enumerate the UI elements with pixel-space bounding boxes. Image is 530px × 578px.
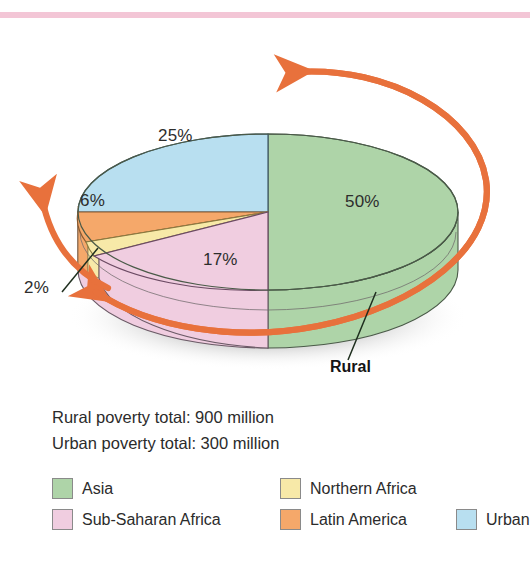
legend-label-asia: Asia (82, 480, 113, 498)
legend-label-northern-africa: Northern Africa (310, 480, 417, 498)
data-label-sub-saharan: 17% (203, 250, 238, 270)
figure-root: 50% 25% 6% 2% 17% Rural Rural poverty to… (0, 0, 530, 578)
legend-swatch-northern-africa (280, 478, 301, 499)
legend-item-urban[interactable]: Urban (456, 509, 530, 530)
legend-swatch-urban (456, 509, 477, 530)
top-rule-divider (0, 12, 530, 18)
legend-label-sub-saharan-africa: Sub-Saharan Africa (82, 511, 221, 529)
data-label-northern-africa: 2% (24, 278, 49, 298)
pie-chart: 50% 25% 6% 2% 17% Rural (0, 20, 530, 400)
rural-callout-label: Rural (330, 358, 371, 376)
legend-label-latin-america: Latin America (310, 511, 407, 529)
legend: Asia Sub-Saharan Africa Northern Africa … (52, 478, 522, 538)
legend-swatch-asia (52, 478, 73, 499)
legend-item-sub-saharan-africa[interactable]: Sub-Saharan Africa (52, 509, 221, 530)
data-label-urban: 25% (158, 126, 193, 146)
legend-swatch-sub-saharan-africa (52, 509, 73, 530)
legend-label-urban: Urban (486, 511, 530, 529)
totals-block: Rural poverty total: 900 million Urban p… (52, 404, 472, 456)
urban-total-text: Urban poverty total: 300 million (52, 430, 472, 456)
legend-item-northern-africa[interactable]: Northern Africa (280, 478, 417, 499)
legend-item-asia[interactable]: Asia (52, 478, 113, 499)
legend-item-latin-america[interactable]: Latin America (280, 509, 407, 530)
rural-total-text: Rural poverty total: 900 million (52, 404, 472, 430)
data-label-asia: 50% (345, 192, 380, 212)
legend-swatch-latin-america (280, 509, 301, 530)
data-label-latin-america: 6% (80, 191, 105, 211)
